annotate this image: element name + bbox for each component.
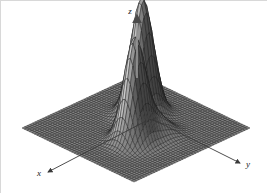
y-axis-label: y	[245, 159, 250, 169]
surface-plot-canvas: zxy	[0, 0, 267, 193]
z-axis-label: z	[127, 6, 132, 16]
x-axis-label: x	[36, 168, 41, 178]
surface-plot-figure: zxy	[0, 0, 267, 193]
surface-mesh	[22, 0, 250, 182]
